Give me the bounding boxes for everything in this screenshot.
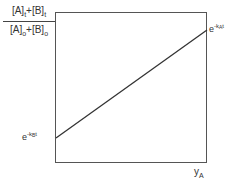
den-a: [A] bbox=[10, 24, 22, 35]
y-axis-label: [A]t+[B]t [A]o+[B]o bbox=[3, 6, 55, 37]
y-label-denominator: [A]o+[B]o bbox=[3, 25, 55, 37]
den-b: [B] bbox=[32, 24, 44, 35]
num-a: [A] bbox=[12, 5, 24, 16]
left-value-label: e-kBt bbox=[22, 131, 37, 142]
plot-frame bbox=[56, 13, 207, 163]
right-value-label: e-kAt bbox=[209, 23, 224, 34]
y-label-numerator: [A]t+[B]t bbox=[3, 6, 55, 18]
x-label-sub: A bbox=[199, 172, 204, 179]
den-b-sub: o bbox=[44, 30, 48, 37]
fraction-bar bbox=[3, 21, 55, 22]
x-axis-label: yA bbox=[194, 166, 204, 179]
left-exp-suffix: t bbox=[35, 131, 37, 137]
num-b-sub: t bbox=[44, 11, 46, 18]
right-exp-suffix: t bbox=[222, 23, 224, 29]
num-b: [B] bbox=[32, 5, 44, 16]
linear-relation-line bbox=[56, 30, 207, 138]
